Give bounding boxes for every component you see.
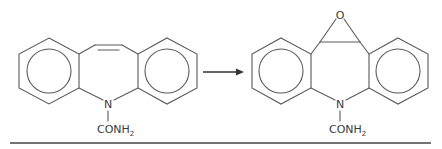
reactant-azepine-ring (79, 45, 138, 100)
reactant-nitrogen-label: N (104, 98, 112, 111)
epoxide-ring: O (320, 9, 360, 42)
reactant-molecule: N CONH2 (19, 38, 197, 138)
reactant-carboxamide-label: CONH2 (97, 123, 134, 138)
product-carboxamide-label: CONH2 (329, 123, 366, 138)
epoxide-oxygen-label: O (336, 9, 345, 22)
product-left-benzene-ring (252, 38, 311, 104)
reaction-arrow (203, 69, 244, 76)
product-molecule: O N CONH2 (252, 9, 428, 138)
arrow-head-icon (236, 69, 244, 76)
reactant-right-benzene-ring (138, 38, 197, 104)
reaction-scheme: N CONH2 O N (0, 0, 442, 149)
product-right-benzene-ring (369, 38, 428, 104)
product-azepine-ring (311, 42, 369, 100)
product-nitrogen-label: N (336, 98, 344, 111)
reactant-left-benzene-ring (19, 38, 79, 104)
